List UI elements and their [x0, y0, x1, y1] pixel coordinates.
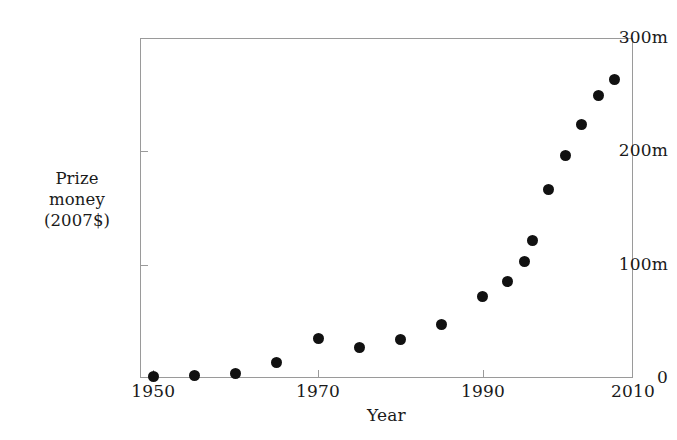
- y-axis-title-line-2: money: [24, 189, 130, 210]
- y-tick-mark: [140, 265, 148, 266]
- y-tick-label: 100m: [553, 256, 677, 273]
- y-axis-title-line-3: (2007$): [24, 210, 130, 231]
- x-tick-mark: [153, 370, 154, 378]
- y-tick-label: 200m: [553, 142, 677, 159]
- x-tick-mark: [483, 370, 484, 378]
- y-axis-title: Prize money (2007$): [24, 168, 130, 231]
- x-tick-label: 1970: [273, 382, 363, 401]
- x-tick-label: 2010: [588, 382, 677, 401]
- x-tick-mark: [318, 370, 319, 378]
- plot-frame: [140, 38, 633, 378]
- y-tick-label: 300m: [553, 29, 677, 46]
- y-tick-mark: [140, 151, 148, 152]
- prize-money-scatter-chart: 0100m200m300m 1950197019902010 Prize mon…: [0, 0, 677, 440]
- x-tick-label: 1990: [438, 382, 528, 401]
- x-tick-label: 1950: [108, 382, 198, 401]
- x-axis-title: Year: [140, 406, 633, 425]
- y-axis-title-line-1: Prize: [24, 168, 130, 189]
